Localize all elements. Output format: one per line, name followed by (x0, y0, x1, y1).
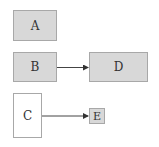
node-c-label: C (23, 109, 32, 123)
node-b-label: B (31, 60, 40, 74)
node-e: E (89, 108, 105, 124)
node-a-label: A (31, 19, 40, 33)
node-d-label: D (114, 60, 124, 74)
node-e-label: E (93, 110, 101, 123)
node-a: A (13, 10, 57, 41)
node-b: B (13, 52, 57, 82)
node-c: C (13, 93, 42, 138)
node-d: D (89, 52, 148, 82)
